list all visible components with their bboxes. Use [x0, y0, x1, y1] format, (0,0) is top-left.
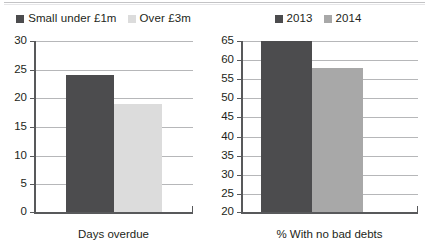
- gridline-25: [34, 70, 193, 71]
- ytick-0: [30, 212, 34, 213]
- ytick-10: [30, 156, 34, 157]
- x-axis-no-bad-debts: [241, 212, 418, 214]
- ytick-5: [30, 184, 34, 185]
- ytick-label-55: 55: [221, 73, 234, 85]
- legend-swatch-icon-over-3m: [128, 15, 136, 23]
- ytick-label-25: 25: [221, 188, 234, 200]
- plot-area-no-bad-debts: 65 60 55 50 45 40 35 30 25 20: [241, 41, 418, 213]
- legend-item-2013: 2013: [275, 13, 313, 25]
- ytick-60: [237, 60, 241, 61]
- ytick-40: [237, 137, 241, 138]
- legend-swatch-icon-2014: [324, 15, 332, 23]
- ytick-label-60: 60: [221, 54, 234, 66]
- x-axis-days-overdue: [34, 212, 193, 214]
- x-axis-label-days-overdue: Days overdue: [34, 229, 193, 241]
- x-axis-right-cap: [417, 206, 419, 213]
- ytick-55: [237, 79, 241, 80]
- bar-2013: [261, 41, 312, 213]
- ytick-label-25: 25: [14, 64, 27, 76]
- ytick-label-40: 40: [221, 131, 234, 143]
- legend-item-over-3m: Over £3m: [128, 13, 191, 25]
- ytick-30: [237, 175, 241, 176]
- bar-over-3m: [114, 104, 162, 213]
- legend-label-over-3m: Over £3m: [140, 13, 191, 25]
- ytick-25: [30, 70, 34, 71]
- ytick-label-50: 50: [221, 93, 234, 105]
- ytick-45: [237, 117, 241, 118]
- ytick-20: [30, 98, 34, 99]
- bar-small-under-1m: [66, 75, 114, 213]
- legend-no-bad-debts: 2013 2014: [207, 11, 429, 26]
- ytick-label-0: 0: [21, 206, 27, 218]
- ytick-50: [237, 98, 241, 99]
- legend-label-small-under-1m: Small under £1m: [28, 13, 116, 25]
- ytick-label-30: 30: [221, 169, 234, 181]
- plot-area-days-overdue: 30 25 20 15 10 5 0: [34, 41, 193, 213]
- legend-label-2013: 2013: [287, 13, 313, 25]
- ytick-label-20: 20: [221, 206, 234, 218]
- chart-days-overdue: Small under £1m Over £3m: [0, 0, 207, 244]
- ytick-label-65: 65: [221, 35, 234, 47]
- ytick-label-15: 15: [14, 121, 27, 133]
- ytick-30: [30, 41, 34, 42]
- ytick-25: [237, 194, 241, 195]
- bar-2014: [312, 68, 363, 213]
- ytick-65: [237, 41, 241, 42]
- legend-label-2014: 2014: [336, 13, 362, 25]
- x-axis-right-cap: [192, 206, 194, 213]
- ytick-label-10: 10: [14, 150, 27, 162]
- y-axis-days-overdue: [34, 41, 36, 213]
- charts-container: Small under £1m Over £3m: [0, 0, 429, 244]
- y-axis-no-bad-debts: [241, 41, 243, 213]
- ytick-label-45: 45: [221, 112, 234, 124]
- legend-swatch-icon-small-under-1m: [16, 15, 24, 23]
- ytick-label-5: 5: [21, 179, 27, 191]
- legend-days-overdue: Small under £1m Over £3m: [0, 11, 207, 26]
- ytick-15: [30, 127, 34, 128]
- legend-item-2014: 2014: [324, 13, 362, 25]
- ytick-label-35: 35: [221, 150, 234, 162]
- gridline-30: [34, 41, 193, 42]
- legend-swatch-icon-2013: [275, 15, 283, 23]
- chart-no-bad-debts: 2013 2014 65: [207, 0, 429, 244]
- x-axis-label-no-bad-debts: % With no bad debts: [241, 229, 418, 241]
- ytick-20: [237, 212, 241, 213]
- legend-item-small-under-1m: Small under £1m: [16, 13, 116, 25]
- ytick-label-30: 30: [14, 35, 27, 47]
- ytick-35: [237, 156, 241, 157]
- ytick-label-20: 20: [14, 93, 27, 105]
